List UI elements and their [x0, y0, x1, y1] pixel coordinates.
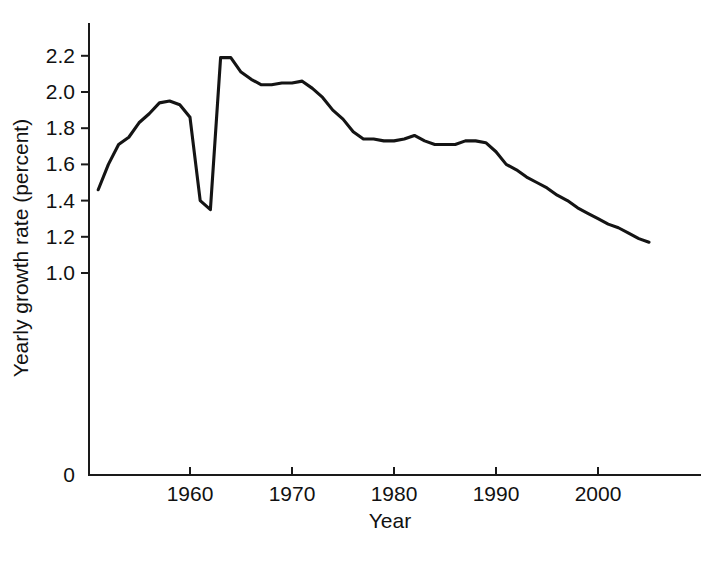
y-tick-label: 2.2	[46, 44, 75, 67]
y-tick-label: 0	[63, 463, 75, 486]
x-axis-tick-labels: 19601970198019902000	[167, 482, 622, 505]
y-tick-label: 1.0	[46, 261, 75, 284]
y-tick-label: 1.4	[46, 189, 76, 212]
y-axis-title: Yearly growth rate (percent)	[9, 119, 32, 377]
data-series-line	[98, 58, 649, 243]
x-tick-label: 1990	[473, 482, 520, 505]
x-tick-label: 1960	[167, 482, 214, 505]
x-axis-title: Year	[369, 509, 411, 532]
line-chart: 01.01.21.41.61.82.02.2 19601970198019902…	[0, 0, 711, 562]
x-tick-label: 2000	[575, 482, 622, 505]
x-tick-label: 1980	[371, 482, 418, 505]
y-axis-ticks	[81, 56, 89, 273]
chart-container: 01.01.21.41.61.82.02.2 19601970198019902…	[0, 0, 711, 562]
y-axis-tick-labels: 01.01.21.41.61.82.02.2	[46, 44, 76, 486]
y-tick-label: 2.0	[46, 80, 75, 103]
x-tick-label: 1970	[269, 482, 316, 505]
x-axis-ticks	[190, 467, 598, 475]
y-tick-label: 1.8	[46, 116, 75, 139]
y-tick-label: 1.2	[46, 225, 75, 248]
y-tick-label: 1.6	[46, 152, 75, 175]
